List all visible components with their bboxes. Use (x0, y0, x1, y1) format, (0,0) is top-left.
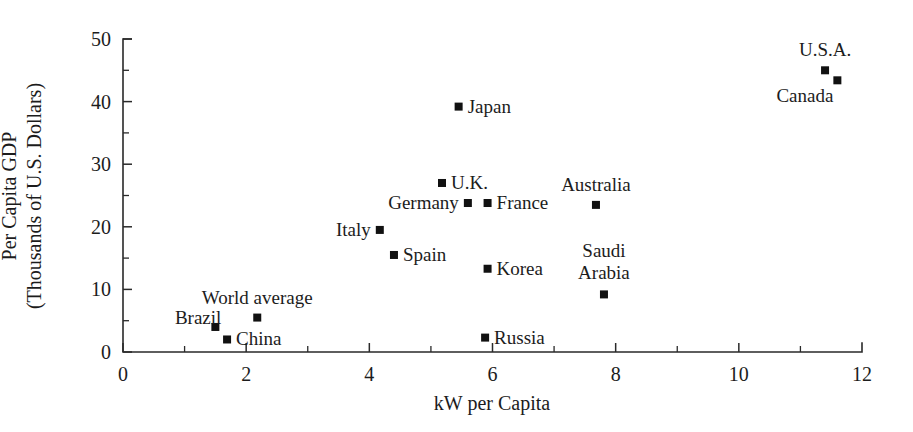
data-point-label: Brazil (175, 308, 221, 329)
data-point-marker (484, 265, 492, 273)
data-point-marker (592, 201, 600, 209)
y-tick-label: 20 (59, 217, 111, 237)
data-point-label: France (497, 193, 549, 214)
plot-canvas (0, 0, 913, 432)
data-point-marker (484, 199, 492, 207)
data-point-label-line: Arabia (565, 262, 643, 283)
data-point-marker (464, 199, 472, 207)
data-point-marker (455, 103, 463, 111)
scatter-chart-figure: Per Capita GDP (Thousands of U.S. Dollar… (0, 0, 913, 432)
data-point-label: China (236, 329, 281, 350)
data-point-label: U.S.A. (799, 41, 851, 62)
data-point-marker (376, 226, 384, 234)
data-point-label: Canada (776, 86, 833, 107)
x-tick-label: 2 (241, 364, 251, 384)
y-axis-label: Per Capita GDP (Thousands of U.S. Dollar… (0, 83, 47, 309)
data-point-marker (390, 251, 398, 259)
data-point-label: Russia (494, 327, 545, 348)
x-tick-label: 0 (118, 364, 128, 384)
y-tick-label: 0 (59, 342, 111, 362)
data-point-label: U.K. (451, 173, 488, 194)
data-point-label: SaudiArabia (565, 241, 643, 284)
x-tick-label: 6 (488, 364, 498, 384)
y-tick-label: 30 (59, 154, 111, 174)
data-point-marker (821, 66, 829, 74)
y-tick-label: 10 (59, 279, 111, 299)
data-point-label: Spain (403, 245, 446, 266)
x-tick-label: 12 (852, 364, 872, 384)
data-point-label: Italy (336, 220, 371, 241)
data-point-marker (438, 179, 446, 187)
data-point-label: Germany (388, 193, 459, 214)
x-tick-label: 4 (364, 364, 374, 384)
x-axis-label: kW per Capita (434, 392, 550, 415)
y-tick-label: 40 (59, 92, 111, 112)
data-point-marker (253, 314, 261, 322)
y-axis-label-line1: Per Capita GDP (0, 132, 20, 261)
data-point-label-line: Saudi (565, 241, 643, 262)
data-point-marker (833, 76, 841, 84)
data-point-marker (223, 335, 231, 343)
data-point-label: Australia (561, 175, 631, 196)
data-point-label: Korea (497, 258, 543, 279)
data-point-label: Japan (468, 96, 511, 117)
x-tick-label: 8 (611, 364, 621, 384)
data-point-marker (481, 334, 489, 342)
x-tick-label: 10 (729, 364, 749, 384)
y-tick-label: 50 (59, 29, 111, 49)
y-axis-label-line2: (Thousands of U.S. Dollars) (22, 83, 47, 309)
data-point-label: World average (202, 288, 313, 309)
data-point-marker (600, 290, 608, 298)
